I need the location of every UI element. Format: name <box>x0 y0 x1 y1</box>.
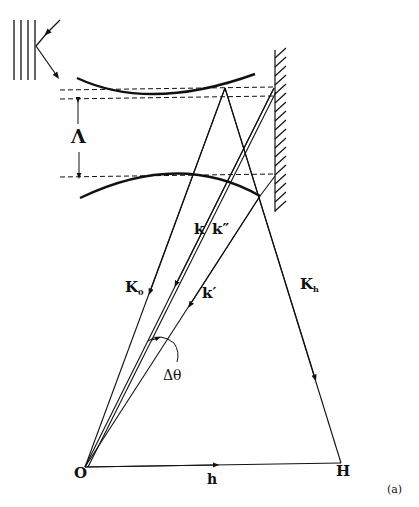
delta-theta-arc <box>148 337 178 362</box>
upper-curve <box>77 74 255 94</box>
k0-label: K0 <box>125 280 144 296</box>
origin-label: O <box>74 466 87 481</box>
hatched-wall <box>275 48 286 212</box>
kh-label: Kh <box>300 277 319 293</box>
diffraction-diagram: Λ k k″ k′ K0 Kh Δθ O H h (a) <box>0 0 419 507</box>
h-vector-label: h <box>207 472 217 486</box>
kh-main: K <box>300 275 313 293</box>
panel-label: (a) <box>387 484 402 495</box>
dashed-lines <box>60 87 275 177</box>
reciprocal-point-label: H <box>336 464 350 479</box>
diagram-drawing <box>0 0 419 507</box>
wavefront-lines <box>14 20 35 80</box>
incident-reflected-arrows <box>36 20 60 76</box>
lambda-label: Λ <box>71 127 86 146</box>
k-prime-label: k′ <box>202 286 216 301</box>
k-label: k <box>194 222 204 237</box>
k-double-prime-label: k″ <box>212 222 229 237</box>
k0-main: K <box>125 278 138 296</box>
k0-subscript: 0 <box>138 287 144 297</box>
kh-subscript: h <box>313 284 319 294</box>
delta-theta-label: Δθ <box>163 368 182 382</box>
